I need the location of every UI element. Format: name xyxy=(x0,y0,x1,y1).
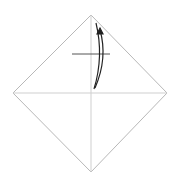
origami-diagram xyxy=(0,0,178,182)
